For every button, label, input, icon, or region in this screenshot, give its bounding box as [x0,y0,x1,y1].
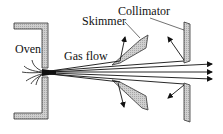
oven-label: Oven [15,42,41,56]
skimmer [112,35,148,110]
gas-flow-label: Gas flow [64,49,108,63]
collimator-leader-line [150,18,184,30]
molecular-beam-diagram: Oven Skimmer Collimator Gas flow [0,0,223,134]
beam-rays [50,61,212,84]
skimmer-leader-line [125,22,140,38]
gas-flow-lines [22,60,45,85]
collimator-label: Collimator [118,4,170,18]
